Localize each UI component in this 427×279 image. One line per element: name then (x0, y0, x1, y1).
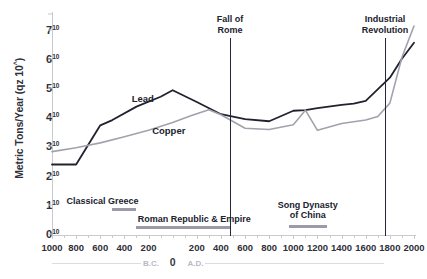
event-line-0 (230, 38, 231, 236)
x-axis-tick-label-4: 200 (141, 242, 157, 253)
x-axis-tick-label-13: 1800 (379, 242, 400, 253)
era-axis-label-ad: A.D. (188, 259, 204, 268)
x-axis-tick-mark-1 (76, 235, 77, 239)
x-axis-tick-label-12: 1600 (355, 242, 376, 253)
era-label-2: Song Dynastyof China (278, 200, 338, 220)
x-axis-minor-tick (136, 235, 137, 238)
y-axis-tick-mark-5 (48, 87, 52, 88)
x-axis-minor-tick (173, 235, 174, 238)
era-bar-1 (136, 226, 230, 229)
event-label-line2: Revolution (362, 25, 409, 36)
event-label-line2: Rome (217, 25, 244, 36)
x-axis-tick-mark-5 (197, 235, 198, 239)
era-label-1: Roman Republic & Empire (138, 214, 251, 224)
x-axis-tick-mark-7 (245, 235, 246, 239)
x-axis-tick-mark-14 (414, 235, 415, 239)
series-line-lead (52, 43, 414, 165)
era-label-line1: Song Dynasty (278, 200, 338, 210)
ytick-exponent: 10 (52, 52, 59, 59)
x-axis-tick-mark-2 (100, 235, 101, 239)
x-axis-tick-label-9: 1000 (283, 242, 304, 253)
x-axis-tick-mark-0 (52, 235, 53, 239)
x-axis-tick-mark-12 (366, 235, 367, 239)
x-axis-tick-label-3: 400 (116, 242, 132, 253)
era-bar-0 (112, 208, 136, 211)
event-label-line1: Industrial (362, 14, 409, 25)
series-label-copper: Copper (152, 125, 185, 136)
series-line-copper (52, 26, 414, 152)
x-axis-tick-mark-3 (124, 235, 125, 239)
y-axis-tick-mark-3 (48, 146, 52, 147)
x-axis-minor-tick (257, 235, 258, 238)
ytick-exponent: 10 (52, 140, 59, 147)
event-label-1: IndustrialRevolution (362, 14, 409, 35)
era-label-line2: of China (278, 210, 338, 220)
era-axis-rule-ad (205, 263, 384, 264)
x-axis-tick-mark-6 (221, 235, 222, 239)
x-axis-tick-mark-4 (149, 235, 150, 239)
y-axis-tick-mark-2 (48, 175, 52, 176)
era-axis-label-zero: 0 (170, 256, 176, 268)
x-axis-minor-tick (209, 235, 210, 238)
y-axis-tick-mark-7 (48, 29, 52, 30)
ytick-exponent: 10 (52, 228, 59, 235)
x-axis-minor-tick (330, 235, 331, 238)
x-axis-minor-tick (305, 235, 306, 238)
x-axis-minor-tick (88, 235, 89, 238)
ytick-exponent: 10 (52, 169, 59, 176)
x-axis-tick-mark-8 (269, 235, 270, 239)
x-axis-tick-label-14: 2000 (403, 242, 424, 253)
metals-production-chart: Metric Tons/Year (qz 10^) 01011021031041… (0, 0, 427, 279)
ytick-exponent: 10 (52, 111, 59, 118)
x-axis-tick-label-2: 600 (92, 242, 108, 253)
ytick-exponent: 10 (52, 198, 59, 205)
y-axis-tick-mark-4 (48, 117, 52, 118)
x-axis-minor-tick (185, 235, 186, 238)
x-axis-minor-tick (281, 235, 282, 238)
x-axis-minor-tick (161, 235, 162, 238)
x-axis-minor-tick (64, 235, 65, 238)
x-axis-minor-tick (112, 235, 113, 238)
event-label-line1: Fall of (217, 14, 244, 25)
event-label-0: Fall ofRome (217, 14, 244, 35)
x-axis-minor-tick (402, 235, 403, 238)
x-axis-tick-label-5: 200 (189, 242, 205, 253)
x-axis-minor-tick (378, 235, 379, 238)
era-axis-rule-bc (52, 263, 141, 264)
x-axis-tick-mark-11 (342, 235, 343, 239)
x-axis-minor-tick (354, 235, 355, 238)
x-axis-tick-label-6: 400 (213, 242, 229, 253)
x-axis-tick-label-10: 1200 (307, 242, 328, 253)
era-label-0: Classical Greece (66, 196, 138, 206)
event-line-1 (385, 38, 386, 236)
x-axis-tick-label-0: 1000 (41, 242, 62, 253)
x-axis-tick-mark-9 (293, 235, 294, 239)
x-axis-tick-label-8: 800 (261, 242, 277, 253)
x-axis-minor-tick (233, 235, 234, 238)
x-axis-tick-mark-13 (390, 235, 391, 239)
series-label-lead: Lead (132, 93, 154, 104)
y-axis-top-stub-mark (48, 14, 52, 15)
x-axis-tick-mark-10 (317, 235, 318, 239)
ytick-exponent: 10 (52, 82, 59, 89)
x-axis-tick-label-11: 1400 (331, 242, 352, 253)
y-axis-tick-mark-6 (48, 58, 52, 59)
y-axis-tick-mark-1 (48, 204, 52, 205)
era-axis-label-bc: B.C. (143, 259, 159, 268)
x-axis-tick-label-1: 800 (68, 242, 84, 253)
ytick-exponent: 10 (52, 23, 59, 30)
era-bar-2 (289, 225, 327, 228)
x-axis-tick-label-7: 600 (237, 242, 253, 253)
